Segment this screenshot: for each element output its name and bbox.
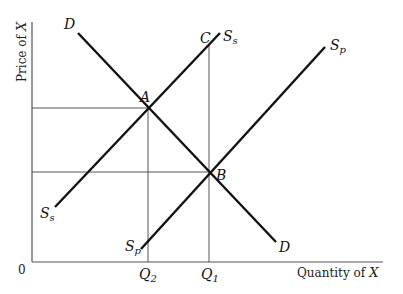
q1-label: Q1	[201, 266, 219, 284]
y-axis-title: Price ofX	[14, 21, 29, 82]
demand-label-bottom: D	[278, 239, 290, 255]
q2-label: Q2	[139, 266, 157, 284]
supply-curve-p	[141, 47, 325, 249]
point-c-label: C	[200, 30, 211, 46]
x-axis-title: Quantity ofX	[297, 265, 379, 280]
supply-p-label-top: Sp	[330, 37, 347, 55]
supply-s-label-bottom: Ss	[40, 205, 55, 223]
point-a-label: A	[138, 89, 150, 105]
origin-label: 0	[18, 263, 26, 277]
supply-curve-s	[55, 33, 220, 207]
demand-label-top: D	[63, 16, 75, 32]
supply-p-label-bottom: Sp	[125, 238, 142, 256]
point-b-label: B	[215, 167, 226, 183]
supply-s-label-top: Ss	[223, 28, 238, 46]
supply-demand-diagram: D D Ss Ss Sp Sp A B C Q2 Q1 0 Quantity o…	[0, 0, 403, 294]
